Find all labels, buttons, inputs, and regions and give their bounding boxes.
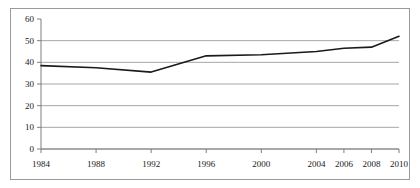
x-axis-tick-label: 2000	[241, 159, 281, 169]
x-axis-tick-label: 1992	[131, 159, 171, 169]
line-chart-figure: 0102030405060 19841988199219962000200420…	[0, 0, 420, 188]
y-axis-tick-label: 30	[11, 79, 34, 89]
x-axis-tick-label: 1996	[186, 159, 226, 169]
y-axis-ticks-group	[37, 19, 41, 149]
y-axis-tick-label: 0	[11, 144, 34, 154]
y-axis-tick-label: 60	[11, 14, 34, 24]
chart-plot-area	[11, 9, 409, 179]
gridlines-group	[41, 41, 399, 149]
x-axis-tick-label: 1988	[76, 159, 116, 169]
x-axis-tick-label: 1984	[21, 159, 61, 169]
x-axis-ticks-group	[41, 149, 399, 153]
y-axis-tick-label: 10	[11, 122, 34, 132]
y-axis-tick-label: 50	[11, 36, 34, 46]
chart-frame: 0102030405060 19841988199219962000200420…	[10, 8, 410, 180]
y-axis-tick-label: 20	[11, 101, 34, 111]
data-series-line	[41, 36, 399, 72]
x-axis-tick-label: 2010	[379, 159, 419, 169]
y-axis-tick-label: 40	[11, 57, 34, 67]
